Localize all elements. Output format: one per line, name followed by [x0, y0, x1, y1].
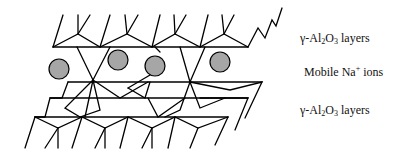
- label-mobile-ions: Mobile Na+ ions: [304, 64, 383, 80]
- label-text: O: [325, 31, 334, 45]
- label-top-layer: γ-Al2O3 layers: [300, 31, 370, 46]
- top-layer-polyhedra: [53, 8, 282, 47]
- label-text: O: [325, 103, 334, 117]
- label-text: Mobile Na: [304, 65, 356, 79]
- na-ion: [49, 59, 69, 79]
- label-text: γ-Al: [300, 103, 321, 117]
- na-ion: [145, 56, 165, 76]
- beta-alumina-diagram: [0, 0, 300, 160]
- label-text: ions: [360, 65, 383, 79]
- label-text: γ-Al: [300, 31, 321, 45]
- na-ion-group: [49, 50, 230, 79]
- label-text: layers: [338, 103, 370, 117]
- na-ion: [210, 52, 230, 72]
- na-ion: [108, 50, 128, 70]
- bottom-layer-polyhedra: [25, 80, 262, 148]
- label-bottom-layer: γ-Al2O3 layers: [300, 103, 370, 118]
- label-text: layers: [338, 31, 370, 45]
